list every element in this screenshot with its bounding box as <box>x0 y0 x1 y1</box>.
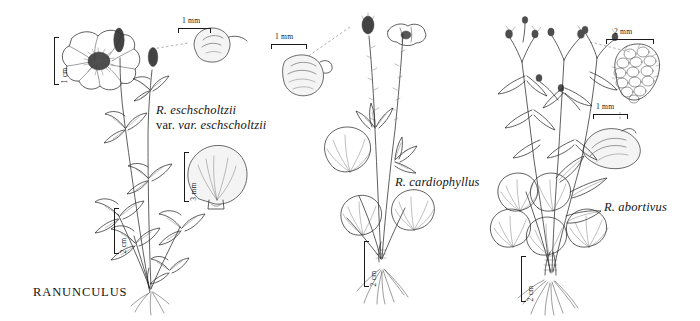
taxon-line-1: R. abortivus <box>604 200 667 215</box>
panel-r-eschscholtzii: 1 cm 1 mm 3 mm 2 cm R. eschscholtzii var… <box>0 0 255 321</box>
leader-line-fruit-head <box>590 42 630 52</box>
basal-leaf-lower-right <box>392 190 435 230</box>
achene-detail-figure <box>283 55 333 96</box>
scale-label-2cm: 2 cm <box>119 229 128 263</box>
basal-leaf-4 <box>566 209 608 247</box>
taxon-name-r-abortivus: R. abortivus <box>604 200 667 215</box>
botanical-plate: 1 cm 1 mm 3 mm 2 cm R. eschscholtzii var… <box>0 0 700 321</box>
scale-label-2cm: 2 cm <box>369 262 378 296</box>
basal-leaf-upper-left <box>325 127 371 172</box>
scale-label-2mm: 2 mm <box>614 27 632 36</box>
basal-leaf-3 <box>526 217 566 255</box>
leader-line-achene <box>152 43 188 49</box>
panel-r-cardiophyllus: 1 mm 2 cm R. cardiophyllus <box>255 0 470 321</box>
taxon-line-2: var. var. eschscholtzii <box>156 118 266 133</box>
cauline-leaf-upper-left <box>356 103 393 129</box>
leader-line-achene <box>307 27 350 57</box>
cauline-leaf-upper-right <box>395 137 417 173</box>
taxon-line-1: R. eschscholtzii <box>156 103 266 118</box>
scale-label-3mm: 3 mm <box>189 175 198 209</box>
basal-leaf-right <box>159 211 205 245</box>
achene-detail-figure <box>583 129 640 169</box>
genus-title: RANUNCULUS <box>33 285 127 300</box>
scale-label-1mm: 1 mm <box>596 102 614 111</box>
aggregate-fruit-head-figure <box>612 44 660 103</box>
achene-detail-figure <box>194 28 247 62</box>
taxon-line-2-epithet: var. eschscholtzii <box>178 118 266 132</box>
habit-figure <box>325 13 435 304</box>
basal-leaf-1 <box>498 173 539 211</box>
panel-r-abortivus: 2 mm 1 mm 2 cm R. abortivus <box>470 0 700 321</box>
taxon-name-r-eschscholtzii: R. eschscholtzii var. var. eschscholtzii <box>156 103 266 132</box>
scale-label-1cm: 1 cm <box>60 59 69 93</box>
taxon-name-r-cardiophyllus: R. cardiophyllus <box>395 175 480 190</box>
taxon-line-1: R. cardiophyllus <box>395 175 480 190</box>
scale-label-1mm: 1 mm <box>182 16 200 25</box>
basal-leaf-2 <box>490 209 530 247</box>
scale-label-2cm: 2 cm <box>526 277 535 311</box>
illustration-r-abortivus <box>470 0 700 321</box>
basal-leaf-lower-right <box>150 256 189 284</box>
flower-figure <box>387 24 425 46</box>
illustration-r-eschscholtzii <box>0 0 255 321</box>
flower-face-view-figure <box>62 30 139 90</box>
scale-label-1mm: 1 mm <box>275 32 293 41</box>
